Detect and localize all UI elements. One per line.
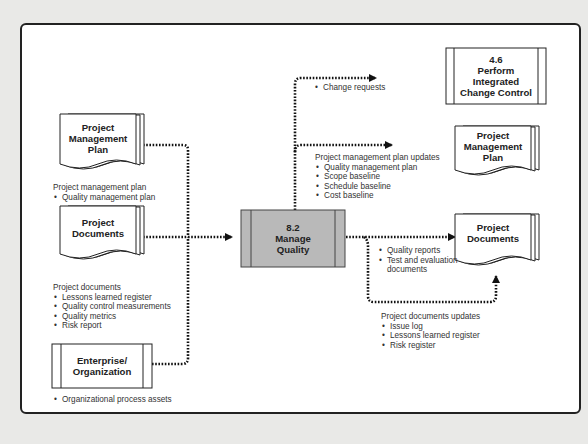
label-eef-input: Organizational process assets — [53, 395, 172, 405]
input-enterprise-organization: Enterprise/Organization — [61, 344, 143, 388]
process-manage-quality: 8.2ManageQuality — [251, 210, 335, 267]
label-docs-updates: Project documents updates Issue log Less… — [381, 312, 480, 350]
input-project-management-plan: ProjectManagementPlan — [60, 116, 136, 160]
label-pmp-updates: Project management plan updates Quality … — [315, 153, 440, 201]
output-project-management-plan: ProjectManagementPlan — [455, 128, 531, 164]
label-pmp-input: Project management plan Quality manageme… — [53, 183, 155, 202]
output-integrated-change-control: 4.6PerformIntegratedChange Control — [454, 48, 538, 104]
label-docs-input: Project documents Lessons learned regist… — [53, 283, 171, 331]
output-project-documents: ProjectDocuments — [455, 216, 531, 250]
label-change-requests: Change requests — [314, 83, 385, 93]
input-project-documents: ProjectDocuments — [60, 210, 136, 246]
label-quality-reports: Quality reports Test and evaluation docu… — [378, 246, 458, 275]
